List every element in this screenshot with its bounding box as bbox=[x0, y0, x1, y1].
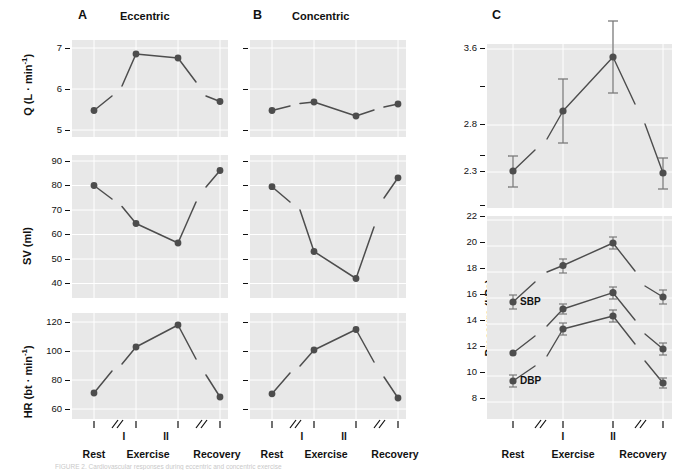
tick-a-sv-60 bbox=[65, 234, 70, 235]
axis-label-q: Q (L · min-1) bbox=[20, 25, 34, 145]
ticklabel-c-p-18: 18 bbox=[450, 262, 477, 273]
xmark-a-i: I bbox=[114, 431, 134, 442]
plot-c-pressure-svg bbox=[487, 216, 672, 419]
tick-b-hr-120 bbox=[243, 322, 248, 323]
tick-b-sv-90 bbox=[243, 161, 248, 162]
xcat-c-exercise: Exercise bbox=[533, 448, 613, 460]
ticklabel-c-p-22: 22 bbox=[450, 210, 477, 221]
plot-c-tpr-svg bbox=[487, 44, 672, 208]
panel-letter-b: B bbox=[253, 8, 262, 22]
ticklabel-c-p-14: 14 bbox=[450, 314, 477, 325]
ticklabel-a-sv-60: 60 bbox=[36, 228, 62, 239]
ticklabel-a-sv-90: 90 bbox=[36, 155, 62, 166]
panel-title-concentric: Concentric bbox=[292, 10, 349, 22]
tick-c-tpr-minor3 bbox=[480, 205, 485, 206]
plot-a-q-svg bbox=[72, 40, 228, 137]
xmark-b-ii: II bbox=[334, 431, 354, 442]
panel-letter-a: A bbox=[78, 8, 87, 22]
tick-a-sv-90 bbox=[65, 161, 70, 162]
tick-a-sv-80 bbox=[65, 185, 70, 186]
plot-b-q-svg bbox=[250, 40, 406, 137]
xaxis-b bbox=[250, 419, 406, 435]
tick-a-sv-40 bbox=[65, 283, 70, 284]
ticklabel-c-tpr-36: 3.6 bbox=[446, 42, 477, 53]
tick-b-sv-60 bbox=[243, 234, 248, 235]
tick-c-p-16 bbox=[480, 294, 485, 295]
panel-letter-c: C bbox=[492, 8, 501, 22]
ticklabel-c-p-16: 16 bbox=[450, 288, 477, 299]
tick-c-p-12 bbox=[480, 346, 485, 347]
plot-b-sv-svg bbox=[250, 155, 406, 298]
plot-b-hr-svg bbox=[250, 313, 406, 419]
xcat-b-exercise: Exercise bbox=[286, 448, 366, 460]
xcat-a-exercise: Exercise bbox=[108, 448, 188, 460]
ticklabel-a-hr-120: 120 bbox=[32, 316, 62, 327]
plot-a-hr bbox=[72, 313, 228, 419]
tick-c-tpr-28 bbox=[480, 124, 485, 125]
ticklabel-a-sv-80: 80 bbox=[36, 179, 62, 190]
figure-root: A Eccentric B Concentric C Q (L · min-1)… bbox=[0, 0, 694, 475]
tick-b-sv-70 bbox=[243, 210, 248, 211]
xmark-b-i: I bbox=[292, 431, 312, 442]
panel-title-eccentric: Eccentric bbox=[120, 10, 170, 22]
tick-b-sv-40 bbox=[243, 283, 248, 284]
tick-b-hr-80 bbox=[243, 380, 248, 381]
plot-c-tpr bbox=[487, 44, 672, 208]
tick-c-tpr-minor1 bbox=[480, 86, 485, 87]
xmark-a-ii: II bbox=[156, 431, 176, 442]
plot-a-hr-svg bbox=[72, 313, 228, 419]
plot-a-sv bbox=[72, 155, 228, 298]
plot-c-pressure bbox=[487, 216, 672, 419]
xcat-b-recovery: Recovery bbox=[355, 448, 435, 460]
plot-a-sv-svg bbox=[72, 155, 228, 298]
tick-a-q-7 bbox=[65, 48, 70, 49]
plot-b-hr bbox=[250, 313, 406, 419]
tick-c-p-20 bbox=[480, 242, 485, 243]
tick-b-sv-50 bbox=[243, 259, 248, 260]
ticklabel-c-p-20: 20 bbox=[450, 236, 477, 247]
ticklabel-a-hr-80: 80 bbox=[32, 374, 62, 385]
ticklabel-c-p-10: 10 bbox=[450, 366, 477, 377]
xaxis-a bbox=[72, 419, 228, 435]
tick-a-hr-120 bbox=[65, 322, 70, 323]
ticklabel-c-p-8: 8 bbox=[450, 392, 477, 403]
tick-a-hr-80 bbox=[65, 380, 70, 381]
tick-c-tpr-36 bbox=[480, 48, 485, 49]
plot-b-q bbox=[250, 40, 406, 137]
tick-c-p-8 bbox=[480, 398, 485, 399]
tick-c-p-22 bbox=[480, 216, 485, 217]
axis-label-sv: SV (ml) bbox=[21, 186, 33, 306]
tick-c-tpr-minor2 bbox=[480, 155, 485, 156]
ticklabel-a-sv-70: 70 bbox=[36, 204, 62, 215]
tick-b-q-5 bbox=[243, 130, 248, 131]
tick-a-hr-100 bbox=[65, 351, 70, 352]
ticklabel-a-sv-50: 50 bbox=[36, 253, 62, 264]
ticklabel-c-tpr-28: 2.8 bbox=[446, 118, 477, 129]
tick-b-hr-60 bbox=[243, 409, 248, 410]
xmark-c-i: I bbox=[553, 431, 573, 442]
series-label-sbp: SBP bbox=[520, 296, 541, 307]
tick-a-q-6 bbox=[65, 89, 70, 90]
figure-caption: FIGURE 2. Cardiovascular responses durin… bbox=[55, 463, 675, 470]
ticklabel-c-tpr-23: 2.3 bbox=[446, 165, 477, 176]
tick-c-p-14 bbox=[480, 320, 485, 321]
ticklabel-a-q-6: 6 bbox=[36, 83, 62, 94]
xcat-c-recovery: Recovery bbox=[603, 448, 683, 460]
tick-b-q-7 bbox=[243, 48, 248, 49]
tick-b-sv-80 bbox=[243, 185, 248, 186]
plot-b-sv bbox=[250, 155, 406, 298]
ticklabel-c-p-12: 12 bbox=[450, 340, 477, 351]
ticklabel-a-hr-100: 100 bbox=[32, 345, 62, 356]
series-label-dbp: DBP bbox=[520, 375, 541, 386]
tick-a-hr-60 bbox=[65, 409, 70, 410]
tick-c-tpr-23 bbox=[480, 171, 485, 172]
plot-a-q bbox=[72, 40, 228, 137]
ticklabel-a-q-7: 7 bbox=[36, 42, 62, 53]
xmark-c-ii: II bbox=[603, 431, 623, 442]
ticklabel-a-q-5: 5 bbox=[36, 124, 62, 135]
tick-b-q-6 bbox=[243, 89, 248, 90]
ticklabel-a-hr-60: 60 bbox=[32, 403, 62, 414]
tick-c-p-10 bbox=[480, 372, 485, 373]
tick-a-q-5 bbox=[65, 130, 70, 131]
tick-a-sv-70 bbox=[65, 210, 70, 211]
